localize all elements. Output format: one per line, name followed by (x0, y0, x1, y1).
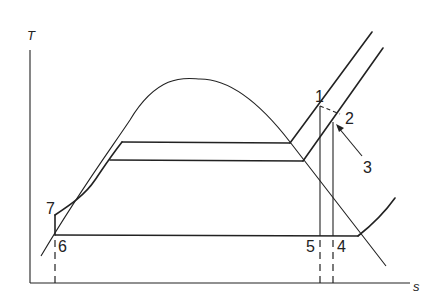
condenser-line (55, 235, 358, 236)
ts-diagram: T s 1 2 3 4 5 6 7 (0, 0, 433, 308)
saturation-dome (41, 78, 386, 266)
arrow-head-icon (336, 124, 344, 132)
label-point-6: 6 (58, 238, 67, 255)
s-axis-label: s (413, 279, 420, 294)
label-point-2: 2 (345, 110, 354, 127)
label-point-5: 5 (306, 238, 315, 255)
liquid-heating-curve (55, 142, 122, 215)
isobar-upper (290, 32, 372, 143)
high-pressure-line (122, 142, 290, 143)
label-point-4: 4 (337, 238, 346, 255)
label-point-1: 1 (315, 88, 324, 105)
label-point-3: 3 (363, 159, 372, 176)
pointer-3 (338, 127, 362, 156)
t-axis-label: T (27, 28, 36, 43)
isobar-condenser (358, 198, 395, 236)
low-pressure-line (110, 160, 303, 161)
label-point-7: 7 (46, 200, 55, 217)
